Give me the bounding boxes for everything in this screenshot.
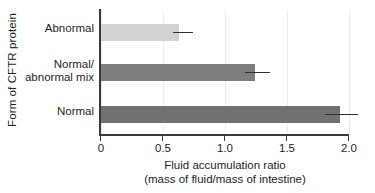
error-bar-abnormal [173, 32, 193, 34]
x-tick-label-0-5: 0.5 [155, 142, 171, 154]
category-label-abnormal-line1: Abnormal [45, 22, 94, 35]
x-tick-mark-1-5 [286, 136, 287, 141]
x-axis-title-line2: (mass of fluid/mass of intestine) [101, 172, 349, 186]
x-tick-mark-0 [100, 136, 101, 141]
x-tick-mark-1-0 [224, 136, 225, 141]
error-bar-normal-abnormal-mix [245, 72, 270, 74]
category-label-normal: Normal [57, 105, 94, 118]
category-label-normal-abnormal-mix: Normal/ abnormal mix [25, 58, 94, 84]
plot-area [101, 10, 349, 135]
bar-chart-figure: Form of CFTR protein Abnormal Normal/ ab… [0, 0, 375, 193]
category-label-abnormal: Abnormal [45, 22, 94, 35]
error-bar-normal [325, 114, 358, 116]
x-tick-mark-2-0 [348, 136, 349, 141]
gridline-2-0 [349, 10, 350, 135]
category-label-mix-line2: abnormal mix [25, 71, 94, 84]
x-axis-title-line1: Fluid accumulation ratio [101, 158, 349, 172]
y-axis-title-text: Form of CFTR protein [6, 13, 18, 127]
x-tick-label-2-0: 2.0 [341, 142, 357, 154]
x-tick-label-1-0: 1.0 [217, 142, 233, 154]
x-axis-title: Fluid accumulation ratio (mass of fluid/… [101, 158, 349, 186]
x-tick-mark-0-5 [162, 136, 163, 141]
bar-abnormal [101, 24, 179, 41]
category-label-mix-line1: Normal/ [25, 58, 94, 71]
bar-normal-abnormal-mix [101, 64, 255, 81]
y-axis-line [99, 9, 101, 136]
x-tick-label-0: 0 [98, 142, 104, 154]
x-tick-label-1-5: 1.5 [279, 142, 295, 154]
category-label-normal-line1: Normal [57, 105, 94, 118]
y-axis-title: Form of CFTR protein [0, 0, 24, 140]
bar-normal [101, 106, 340, 123]
